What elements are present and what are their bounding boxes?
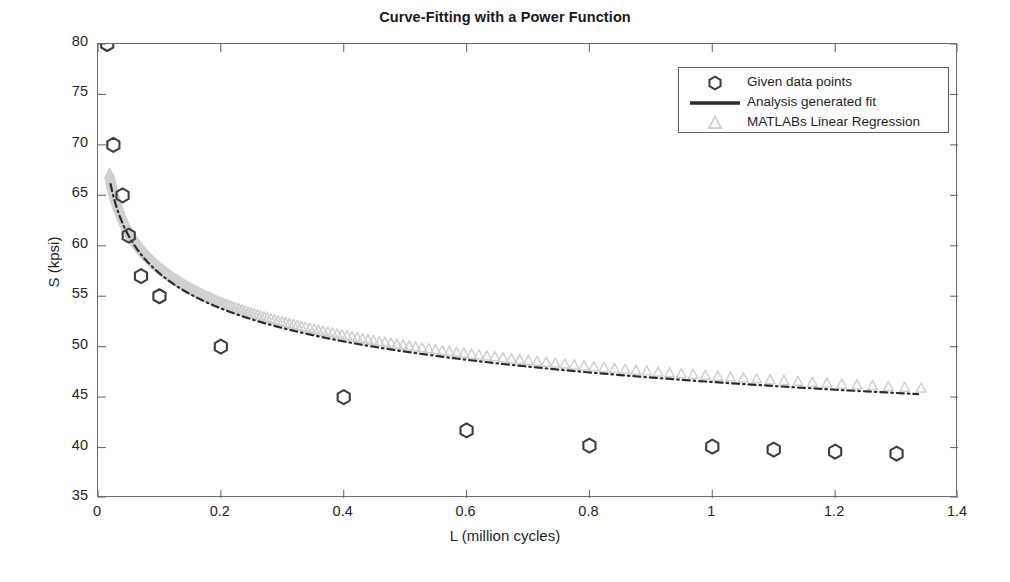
legend-label: Given data points [747, 74, 852, 89]
page-title: Curve-Fitting with a Power Function [0, 9, 1010, 25]
legend-label: Analysis generated fit [747, 94, 876, 109]
y-tick-label: 75 [48, 83, 88, 99]
y-tick-label: 60 [48, 235, 88, 251]
y-tick-label: 70 [48, 134, 88, 150]
y-tick-label: 65 [48, 184, 88, 200]
y-axis-label: S (kpsi) [45, 202, 62, 322]
x-tick-label: 1.2 [804, 503, 864, 519]
y-tick-label: 35 [48, 487, 88, 503]
x-tick-label: 1.4 [927, 503, 987, 519]
y-tick-label: 45 [48, 386, 88, 402]
legend-item[interactable]: Analysis generated fit [679, 92, 950, 114]
x-axis-label: L (million cycles) [380, 527, 630, 544]
x-tick-label: 0.4 [313, 503, 373, 519]
y-tick-label: 80 [48, 33, 88, 49]
x-tick-label: 1 [681, 503, 741, 519]
y-tick-label: 40 [48, 437, 88, 453]
y-tick-label: 50 [48, 336, 88, 352]
figure-canvas: Curve-Fitting with a Power Function S (k… [0, 0, 1010, 582]
x-tick-label: 0 [67, 503, 127, 519]
triangle-icon [687, 112, 743, 134]
hexagram-icon [687, 72, 743, 94]
legend: Given data pointsAnalysis generated fitM… [678, 67, 949, 133]
x-tick-label: 0.2 [190, 503, 250, 519]
legend-label: MATLABs Linear Regression [747, 114, 920, 129]
x-tick-label: 0.8 [558, 503, 618, 519]
line-icon [687, 92, 743, 114]
series-matlab-linear-regression [105, 168, 926, 392]
legend-item[interactable]: MATLABs Linear Regression [679, 112, 950, 134]
legend-item[interactable]: Given data points [679, 72, 950, 94]
x-tick-label: 0.6 [436, 503, 496, 519]
y-tick-label: 55 [48, 285, 88, 301]
